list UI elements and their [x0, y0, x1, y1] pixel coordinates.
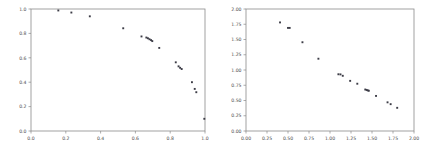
scatter-marker — [287, 27, 289, 29]
x-tick-label: 0.6 — [132, 136, 139, 141]
x-tick-label: 0.25 — [262, 136, 272, 141]
y-tick-label: 0.2 — [19, 104, 26, 109]
scatter-marker — [122, 27, 124, 29]
y-tick-label: 0.4 — [19, 80, 26, 85]
scatter-marker — [301, 41, 303, 43]
y-tick-label: 0.8 — [19, 31, 26, 36]
scatter-marker — [151, 40, 153, 42]
y-tick-label: 0.75 — [231, 83, 241, 88]
scatter-marker — [141, 36, 143, 38]
x-axis-ticks-left: 0.00.20.40.60.81.0 — [27, 131, 208, 141]
plot-area-left: 0.00.20.40.60.81.0 0.00.20.40.60.81.0 — [0, 0, 214, 162]
scatter-marker — [396, 107, 398, 109]
y-axis-ticks-right: 0.000.250.500.751.001.251.501.752.00 — [231, 7, 246, 134]
data-points-right — [279, 21, 398, 108]
x-axis-ticks-right: 0.000.250.500.751.001.251.501.752.00 — [241, 131, 419, 141]
plot-area-right: 0.000.250.500.751.001.251.501.752.00 0.0… — [214, 0, 428, 162]
scatter-marker — [175, 61, 177, 63]
y-tick-label: 1.0 — [19, 7, 26, 12]
y-axis-ticks-left: 0.00.20.40.60.81.0 — [19, 7, 31, 134]
y-tick-label: 0.6 — [19, 56, 26, 61]
x-tick-label: 1.0 — [201, 136, 208, 141]
scatter-marker — [368, 90, 370, 92]
x-tick-label: 0.00 — [241, 136, 251, 141]
scatter-marker — [191, 81, 193, 83]
y-tick-label: 0.0 — [19, 129, 26, 134]
scatter-panel-left: 0.00.20.40.60.81.0 0.00.20.40.60.81.0 — [0, 0, 214, 162]
y-tick-label: 1.50 — [231, 37, 241, 42]
y-tick-label: 1.00 — [231, 68, 241, 73]
axes-frame-left — [31, 9, 205, 131]
x-tick-label: 0.4 — [97, 136, 104, 141]
scatter-marker — [375, 95, 377, 97]
scatter-marker — [317, 58, 319, 60]
x-tick-label: 0.8 — [167, 136, 174, 141]
scatter-marker — [158, 47, 160, 49]
scatter-marker — [89, 15, 91, 17]
data-points-left — [57, 10, 205, 120]
x-tick-label: 0.75 — [304, 136, 314, 141]
x-tick-label: 1.75 — [388, 136, 398, 141]
x-tick-label: 0.2 — [62, 136, 69, 141]
scatter-marker — [181, 68, 183, 70]
scatter-marker — [279, 21, 281, 23]
y-tick-label: 1.75 — [231, 22, 241, 27]
x-tick-label: 2.00 — [409, 136, 419, 141]
x-tick-label: 0.50 — [283, 136, 293, 141]
x-tick-label: 0.0 — [27, 136, 34, 141]
y-tick-label: 1.25 — [231, 52, 241, 57]
figure-canvas: 0.00.20.40.60.81.0 0.00.20.40.60.81.0 0.… — [0, 0, 428, 162]
x-tick-label: 1.00 — [325, 136, 335, 141]
scatter-marker — [195, 91, 197, 93]
axes-frame-right — [246, 9, 414, 131]
scatter-marker — [356, 83, 358, 85]
y-tick-label: 0.00 — [231, 129, 241, 134]
y-tick-label: 2.00 — [231, 7, 241, 12]
x-tick-label: 1.50 — [367, 136, 377, 141]
scatter-marker — [342, 75, 344, 77]
scatter-marker — [57, 10, 59, 12]
scatter-marker — [70, 12, 72, 14]
scatter-marker — [390, 103, 392, 105]
scatter-marker — [289, 27, 291, 29]
scatter-marker — [203, 118, 205, 120]
scatter-marker — [349, 80, 351, 82]
scatter-marker — [194, 88, 196, 90]
y-tick-label: 0.50 — [231, 98, 241, 103]
y-tick-label: 0.25 — [231, 113, 241, 118]
scatter-marker — [340, 73, 342, 75]
x-tick-label: 1.25 — [346, 136, 356, 141]
scatter-panel-right: 0.000.250.500.751.001.251.501.752.00 0.0… — [214, 0, 428, 162]
scatter-marker — [387, 101, 389, 103]
scatter-marker — [337, 73, 339, 75]
